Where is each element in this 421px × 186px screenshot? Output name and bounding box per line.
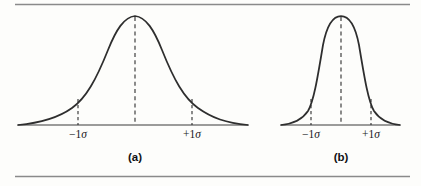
panel-a-minus-sigma-label: −1σ [69,129,87,141]
panel-b-plus-sigma-label: +1σ [362,129,380,141]
panel-b-minus-sigma-label: −1σ [302,129,320,141]
panel-a-plus-sigma-label: +1σ [183,129,201,141]
figure-canvas [0,0,421,186]
panel-a-chart [18,16,248,125]
panel-b-caption: (b) [334,152,349,164]
figure-container: −1σ +1σ −1σ +1σ (a) (b) [0,0,421,186]
panel-b-chart [281,16,400,125]
panel-a-caption: (a) [128,152,142,164]
panel-a-bell-curve [18,16,248,125]
